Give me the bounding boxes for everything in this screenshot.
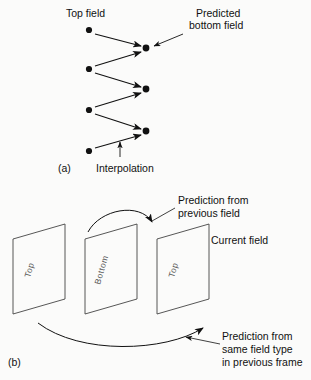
plane-label-2: Bottom — [92, 254, 110, 286]
prediction-same-field-label-line1: Prediction from — [222, 330, 293, 342]
plane-label-1: Top — [22, 261, 36, 278]
top-field-dot-1 — [86, 27, 92, 33]
predicted-bottom-field-dot-2 — [143, 86, 150, 93]
interpolation-arrow-1 — [95, 34, 141, 46]
plane-bottom: Bottom — [85, 224, 137, 314]
interpolation-arrow-4 — [95, 93, 141, 107]
top-field-dot-3 — [86, 107, 92, 113]
prediction-same-field-arrow — [38, 323, 203, 347]
top-field-dot-2 — [86, 66, 92, 72]
panel-b: Prediction from previous field Top Botto… — [8, 194, 303, 368]
interpolation-arrow-2 — [95, 52, 141, 66]
figure-svg: Top field Predicted bottom field Interpo… — [0, 0, 311, 380]
top-field-dot-4 — [86, 148, 92, 154]
plane-label-3: Top — [166, 261, 180, 278]
predicted-bottom-field-label-line1: Predicted — [196, 7, 241, 19]
plane-top-1: Top — [13, 224, 65, 314]
figure-container: Top field Predicted bottom field Interpo… — [0, 0, 311, 380]
prediction-previous-field-leader — [152, 208, 175, 221]
predicted-bottom-field-dot-3 — [143, 128, 150, 135]
interpolation-arrow-3 — [95, 73, 141, 87]
interpolation-label: Interpolation — [96, 162, 154, 174]
panel-a: Top field Predicted bottom field Interpo… — [58, 7, 243, 174]
predicted-bottom-field-label-line2: bottom field — [189, 19, 243, 31]
interpolation-arrow-6 — [95, 135, 141, 148]
predicted-leader-line — [154, 34, 183, 46]
prediction-same-field-leader — [186, 337, 220, 344]
prediction-previous-field-label-line1: Prediction from — [178, 194, 249, 206]
predicted-bottom-field-dot-1 — [143, 45, 150, 52]
top-field-label: Top field — [66, 7, 105, 19]
prediction-previous-field-label-line2: previous field — [178, 207, 240, 219]
panel-a-caption: (a) — [58, 162, 71, 174]
prediction-same-field-label-line3: in previous frame — [222, 356, 303, 368]
current-field-label: Current field — [211, 234, 268, 246]
plane-top-2: Top — [157, 224, 209, 314]
panel-b-caption: (b) — [8, 356, 21, 368]
interpolation-arrow-5 — [95, 114, 141, 129]
prediction-same-field-label-line2: same field type — [222, 343, 293, 355]
